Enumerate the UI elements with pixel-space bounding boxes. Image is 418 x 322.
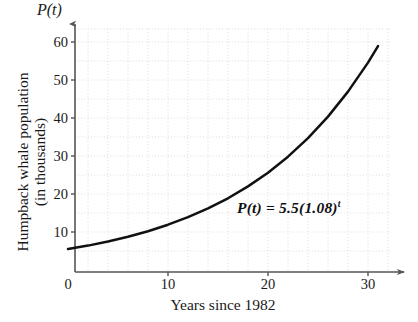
x-tick-label-0: 0 — [48, 276, 88, 293]
equation-exponent: t — [338, 198, 341, 209]
x-axis-title-text: Years since 1982 — [170, 296, 275, 313]
equation-annotation: P(t) = 5.5(1.08)t — [237, 198, 341, 217]
x-tick-label-30: 30 — [348, 276, 388, 293]
x-tick-label-10: 10 — [148, 276, 188, 293]
equation-text: P(t) = 5.5(1.08) — [237, 199, 338, 216]
whale-population-figure: P(t) 60 50 40 30 20 10 0 10 20 30 P(t) =… — [0, 0, 418, 322]
y-tick-label-40: 40 — [38, 110, 68, 127]
y-tick-label-60: 60 — [38, 34, 68, 51]
gridlines — [75, 29, 390, 272]
vertical-axis-name: P(t) — [37, 1, 62, 19]
y-tick-label-50: 50 — [38, 72, 68, 89]
x-tick-label-20: 20 — [248, 276, 288, 293]
y-tick-label-10: 10 — [38, 224, 68, 241]
y-tick-label-20: 20 — [38, 186, 68, 203]
grid-horizontal — [75, 29, 390, 251]
x-axis-title: Years since 1982 — [0, 296, 418, 314]
y-tick-label-30: 30 — [38, 148, 68, 165]
population-curve — [68, 46, 378, 249]
